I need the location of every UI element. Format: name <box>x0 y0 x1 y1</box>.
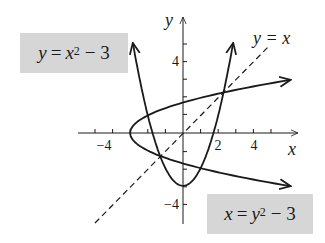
x-tick-label-2: 2 <box>215 138 222 153</box>
diagonal-label: y = x <box>251 28 290 48</box>
parabola-equals: = <box>51 42 62 64</box>
label-parabola-equation: y = x2 − 3 <box>20 33 128 73</box>
sideways-rest: − 3 <box>271 203 296 225</box>
sideways-exponent: 2 <box>260 205 266 220</box>
y-ticks <box>183 44 187 204</box>
x-tick-label-neg4: −4 <box>97 138 112 153</box>
y-tick-label-neg4: −4 <box>164 197 179 212</box>
label-sideways-equation: x = y2 − 3 <box>207 194 313 234</box>
y-tick-label-4: 4 <box>172 54 179 69</box>
x-tick-label-4: 4 <box>251 138 258 153</box>
y-axis-label: y <box>163 10 173 30</box>
parabola-exponent: 2 <box>74 44 80 59</box>
sideways-var: y <box>251 203 259 225</box>
sideways-lhs: x <box>224 203 232 225</box>
parabola-var: x <box>65 42 73 64</box>
sideways-equals: = <box>237 203 248 225</box>
x-axis-label: x <box>287 139 296 159</box>
parabola-lhs: y <box>38 42 46 64</box>
parabola-rest: − 3 <box>85 42 110 64</box>
